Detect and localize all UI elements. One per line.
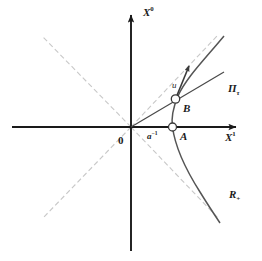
horizontal-axis-label: X1: [225, 131, 236, 143]
point-A-label: A: [180, 131, 187, 142]
point-B-label: B: [183, 103, 190, 114]
vertical-axis-label: X0: [143, 6, 154, 18]
origin-label: 0: [118, 135, 124, 146]
figure-canvas: [0, 0, 262, 261]
asymptote-up-left-line: [42, 36, 131, 127]
a-inverse-label: a−1: [147, 131, 157, 141]
vector-u-label: u: [172, 81, 177, 90]
figure-container: X0 X1 0 a−1 A B u Πτ R+: [0, 0, 262, 261]
region-label: R+: [229, 189, 240, 203]
point-A-marker: [169, 123, 177, 131]
hyperplane-label: Πτ: [228, 83, 240, 97]
point-B-marker: [171, 95, 179, 103]
